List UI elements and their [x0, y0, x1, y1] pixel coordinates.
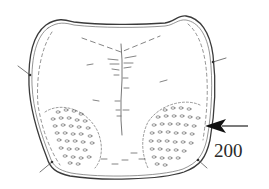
median-line — [121, 44, 122, 135]
pronotum-outline — [29, 16, 215, 179]
left-margin-dashes — [38, 32, 60, 165]
seta-sockets — [29, 61, 215, 164]
right-margin-dashes — [188, 24, 207, 140]
figure-number-label: 200 — [214, 141, 243, 160]
right-punctured-area — [143, 102, 200, 168]
midline-ticks — [87, 56, 167, 164]
pronotum-inner-margin — [32, 20, 212, 176]
left-punctured-area — [45, 107, 101, 168]
